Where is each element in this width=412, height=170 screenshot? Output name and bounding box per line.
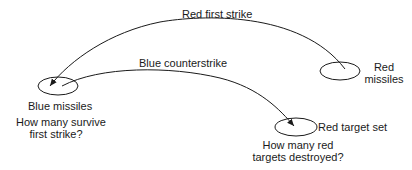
red-missiles-label-line2: missiles	[364, 73, 404, 85]
red-first-strike-arrow	[50, 18, 345, 86]
red-target-set-ellipse	[275, 118, 317, 136]
red-missiles-label-line1: Red	[364, 61, 404, 73]
diagram-edges	[0, 0, 412, 170]
red-target-set-question-line1: How many red	[252, 139, 344, 151]
red-target-set-label: Red target set	[318, 121, 387, 133]
red-missiles-ellipse	[320, 62, 360, 80]
diagram-canvas: Red first strike Blue counterstrike Blue…	[0, 0, 412, 170]
blue-counterstrike-label: Blue counterstrike	[139, 57, 227, 69]
blue-missiles-question-line2: first strike?	[16, 128, 96, 140]
red-missiles-label: Red missiles	[364, 61, 404, 85]
blue-missiles-question: How many survive first strike?	[16, 116, 96, 140]
red-target-set-question-line2: targets destroyed?	[252, 151, 344, 163]
blue-missiles-question-line1: How many survive	[16, 116, 96, 128]
blue-missiles-ellipse	[38, 77, 78, 95]
blue-missiles-label: Blue missiles	[28, 100, 92, 112]
red-first-strike-label: Red first strike	[182, 8, 252, 20]
red-target-set-question: How many red targets destroyed?	[252, 139, 344, 163]
